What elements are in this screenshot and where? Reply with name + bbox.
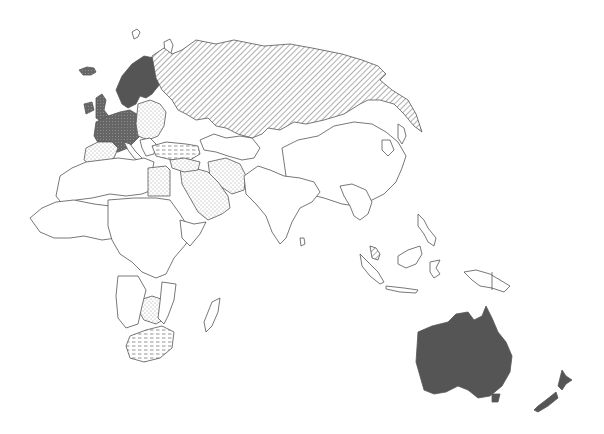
region-ireland [84,102,94,114]
region-central-asia [200,134,260,160]
region-java [386,286,418,293]
region-madagascar [204,298,220,332]
region-egypt [148,166,170,196]
region-russia [152,40,422,138]
region-papua-new-guinea [464,270,510,292]
region-new-zealand-north [558,370,572,390]
region-central-east-africa [108,198,190,278]
region-mozambique [158,282,176,324]
region-iceland [79,67,96,75]
region-eastern-europe [136,100,166,140]
region-levant [170,158,200,172]
world-map [0,0,604,434]
region-malaysia [370,246,380,260]
region-new-zealand-south [534,392,558,412]
region-svalbard [132,29,140,39]
region-borneo [398,246,422,268]
region-tasmania [492,394,500,402]
region-sulawesi [430,260,440,278]
region-angola-namibia [116,276,146,328]
region-japan [398,124,406,144]
region-sri-lanka [300,238,305,246]
region-turkey [152,142,200,160]
region-australia [416,306,512,398]
region-sumatra [360,254,384,284]
region-south-africa [126,326,174,362]
region-philippines [418,214,436,246]
